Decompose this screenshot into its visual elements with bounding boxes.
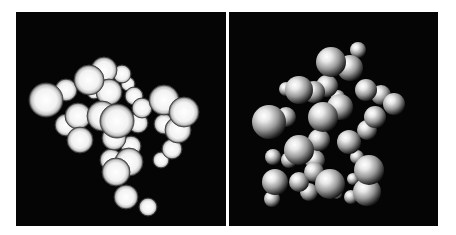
sphere-render-outlined bbox=[16, 12, 226, 226]
sphere bbox=[29, 83, 63, 117]
sphere bbox=[252, 105, 286, 139]
sphere bbox=[354, 155, 384, 185]
sphere bbox=[74, 65, 104, 95]
sphere-cluster-outlined bbox=[16, 12, 226, 226]
sphere bbox=[169, 97, 199, 127]
sphere bbox=[383, 93, 405, 115]
sphere-render-shaded bbox=[229, 12, 438, 226]
sphere bbox=[316, 47, 346, 77]
sphere bbox=[284, 135, 314, 165]
sphere bbox=[114, 185, 138, 209]
sphere bbox=[139, 198, 157, 216]
sphere bbox=[337, 130, 361, 154]
sphere bbox=[102, 158, 130, 186]
sphere bbox=[355, 79, 377, 101]
sphere bbox=[67, 127, 93, 153]
sphere bbox=[100, 104, 134, 138]
sphere bbox=[285, 76, 313, 104]
sphere bbox=[364, 106, 386, 128]
sphere bbox=[265, 149, 281, 165]
sphere bbox=[262, 169, 288, 195]
sphere bbox=[315, 169, 345, 199]
sphere bbox=[308, 102, 338, 132]
sphere-cluster-shaded bbox=[229, 12, 438, 226]
